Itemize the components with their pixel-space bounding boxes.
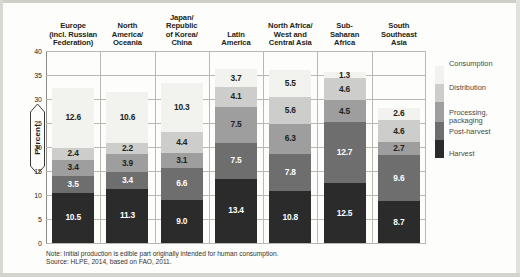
bar-segment-value: 3.5 <box>68 179 79 189</box>
category-header: Europe(incl. RussianFederation) <box>46 22 100 48</box>
bar-segment-value: 5.5 <box>285 78 296 88</box>
category-header-row: Europe(incl. RussianFederation)NorthAmer… <box>46 4 426 48</box>
bar-segment[interactable]: 12.7 <box>324 122 366 183</box>
bar-segment[interactable]: 7.5 <box>215 143 257 179</box>
bar-segment-value: 10.5 <box>65 212 81 222</box>
gridline <box>46 51 426 52</box>
bar-segment-value: 4.5 <box>339 106 350 116</box>
plot-area: 051015202530354012.62.43.43.510.510.62.2… <box>46 51 426 243</box>
bar-segment[interactable]: 4.5 <box>324 100 366 122</box>
bar-segment-value: 3.1 <box>176 155 187 165</box>
bar-segment[interactable]: 3.4 <box>52 160 94 176</box>
category-header-line: Federation) <box>46 39 100 48</box>
bar-segment[interactable]: 6.6 <box>161 168 203 200</box>
bar-segment-value: 11.3 <box>120 210 135 220</box>
category-header-line: China <box>155 39 209 48</box>
scan-edge-bottom <box>0 273 520 277</box>
column-separator <box>155 51 156 243</box>
bar-segment[interactable]: 11.3 <box>106 189 148 243</box>
legend-label: Distribution <box>449 84 486 92</box>
bar-segment-value: 2.6 <box>393 108 404 118</box>
category-header-line: Oceania <box>100 39 154 48</box>
bar-segment[interactable]: 3.5 <box>52 176 94 193</box>
scan-edge-top <box>0 0 520 3</box>
bar-segment[interactable]: 4.4 <box>161 132 203 153</box>
bar-segment[interactable]: 3.9 <box>106 154 148 173</box>
legend-label: Processing, packaging <box>449 109 488 126</box>
note-text: Note: Initial production is edible part … <box>46 250 466 258</box>
percent-axis-label-wrap: Percent <box>29 103 46 175</box>
column-separator <box>317 51 318 243</box>
bar-segment[interactable]: 9.0 <box>161 200 203 243</box>
bar-segment[interactable]: 3.1 <box>161 153 203 168</box>
bar-segment[interactable]: 7.8 <box>269 154 311 191</box>
bar-stack[interactable]: 10.34.43.16.69.0 <box>161 83 203 243</box>
gridline <box>46 243 426 244</box>
source-text: Source: HLPE, 2014, based on FAO, 2011. <box>46 258 466 266</box>
bar-segment-value: 4.1 <box>230 91 241 101</box>
bar-segment[interactable]: 8.7 <box>378 201 420 243</box>
bar-segment-value: 4.4 <box>176 137 187 147</box>
bar-segment[interactable]: 4.6 <box>378 120 420 142</box>
bar-segment-value: 2.4 <box>68 148 79 158</box>
legend-swatch-column <box>435 66 444 158</box>
bar-segment-value: 12.6 <box>65 112 81 122</box>
bar-segment-value: 12.5 <box>337 208 353 218</box>
bar-segment[interactable]: 12.6 <box>52 88 94 148</box>
bar-segment[interactable]: 10.6 <box>106 92 148 143</box>
y-axis-tick-label: 30 <box>34 96 42 103</box>
bar-segment[interactable]: 10.8 <box>269 191 311 243</box>
bar-stack[interactable]: 1.34.64.512.712.5 <box>324 72 366 243</box>
category-header: LatinAmerica <box>209 31 263 48</box>
bar-segment-value: 6.6 <box>176 178 187 188</box>
column-separator <box>100 51 101 243</box>
bar-stack[interactable]: 12.62.43.43.510.5 <box>52 88 94 243</box>
bar-segment[interactable]: 7.5 <box>215 107 257 143</box>
scan-edge-left <box>0 0 3 277</box>
bar-segment[interactable]: 10.3 <box>161 83 203 132</box>
bar-segment-value: 9.0 <box>176 216 187 226</box>
column-separator <box>209 51 210 243</box>
bar-segment[interactable]: 5.6 <box>269 97 311 124</box>
bar-segment[interactable]: 4.1 <box>215 87 257 107</box>
bar-segment-value: 7.5 <box>230 119 241 129</box>
y-axis-tick-label: 0 <box>38 240 42 247</box>
column-separator <box>263 51 264 243</box>
bar-segment-value: 3.9 <box>122 158 133 168</box>
legend-label: Consumption <box>449 60 493 68</box>
bar-stack[interactable]: 3.74.17.57.513.4 <box>215 69 257 243</box>
bar-segment[interactable]: 13.4 <box>215 179 257 243</box>
bar-segment[interactable]: 2.2 <box>106 143 148 154</box>
bar-segment[interactable]: 3.4 <box>106 172 148 188</box>
bar-segment[interactable]: 3.7 <box>215 69 257 87</box>
category-header: Sub-SaharanAfrica <box>317 22 371 48</box>
legend-swatch <box>435 102 444 122</box>
bar-stack[interactable]: 5.55.66.37.810.8 <box>269 70 311 243</box>
category-header-line: America <box>209 39 263 48</box>
bar-stack[interactable]: 10.62.23.93.411.3 <box>106 92 148 243</box>
bar-segment[interactable]: 2.4 <box>52 148 94 160</box>
bar-segment-value: 10.8 <box>283 212 299 222</box>
bar-segment[interactable]: 12.5 <box>324 183 366 243</box>
bar-segment[interactable]: 6.3 <box>269 124 311 154</box>
legend-swatch <box>435 66 444 84</box>
bar-segment[interactable]: 2.6 <box>378 108 420 120</box>
category-header: North Africa/West andCentral Asia <box>263 22 317 48</box>
bar-segment[interactable]: 9.6 <box>378 155 420 201</box>
bar-stack[interactable]: 2.64.62.79.68.7 <box>378 108 420 243</box>
bar-segment[interactable]: 4.6 <box>324 78 366 100</box>
category-header-line: Africa <box>317 39 371 48</box>
bar-segment-value: 6.3 <box>285 133 296 143</box>
bar-segment[interactable]: 10.5 <box>52 193 94 243</box>
y-axis-tick-label: 35 <box>34 72 42 79</box>
bar-segment-value: 3.4 <box>68 162 79 172</box>
percent-axis-marker: Percent <box>29 103 46 175</box>
bar-segment[interactable]: 5.5 <box>269 70 311 96</box>
column-separator <box>372 51 373 243</box>
chart-figure: Europe(incl. RussianFederation)NorthAmer… <box>0 0 520 277</box>
legend-label: Post-harvest <box>449 128 491 136</box>
bar-segment-value: 7.5 <box>230 155 241 165</box>
legend-swatch <box>435 140 444 158</box>
bar-segment-value: 10.3 <box>174 102 190 112</box>
bar-segment[interactable]: 2.7 <box>378 142 420 155</box>
